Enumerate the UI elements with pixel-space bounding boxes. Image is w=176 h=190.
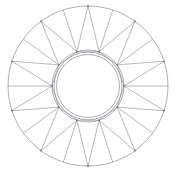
rosette-edge	[41, 120, 77, 150]
inner-vertex-node-7	[58, 106, 60, 108]
outer-vertex-node-2	[134, 20, 136, 22]
outer-vertex-node-6	[87, 165, 89, 167]
rosette-svg	[0, 0, 176, 190]
rosette-edge	[12, 107, 59, 111]
rosette-edge	[41, 21, 77, 51]
rosette-edge	[63, 120, 77, 162]
outer-vertex-node-1	[87, 5, 89, 7]
inner-vertex-node-9	[58, 64, 60, 66]
rosette-edge	[124, 61, 164, 86]
rosette-edge	[12, 61, 52, 86]
outer-vertex-node-8	[11, 110, 13, 112]
rosette-edge	[77, 120, 88, 166]
inner-vertex-node-10	[76, 51, 78, 53]
rosette-edge	[99, 10, 113, 52]
rosette-edge	[99, 120, 135, 150]
rosette-edge	[88, 120, 99, 166]
rosette-edge	[117, 61, 164, 65]
outer-vertex-node-5	[134, 150, 136, 152]
inner-concentric-circle-2	[54, 52, 122, 120]
rosette-edge	[124, 86, 164, 111]
rosette-edge	[12, 86, 52, 111]
rosette-edge	[12, 61, 59, 65]
inner-vertex-node-1	[98, 51, 100, 53]
inner-concentric-circle-3	[57, 55, 120, 118]
inner-vertex-node-3	[123, 85, 125, 87]
rosette-edge	[88, 6, 99, 52]
outer-vertex-node-9	[11, 60, 13, 62]
rosette-edge	[99, 21, 135, 51]
inner-concentric-circle-1	[52, 50, 124, 122]
spoke-line-group	[8, 10, 168, 162]
inner-vertex-node-4	[116, 106, 118, 108]
inner-vertex-node-2	[116, 64, 118, 66]
rosette-diagram-canvas	[0, 0, 176, 190]
outer-vertex-node-3	[163, 60, 165, 62]
outer-vertex-node-4	[163, 110, 165, 112]
outer-vertex-node-7	[40, 150, 42, 152]
rosette-edge	[63, 10, 77, 52]
rosette-edge	[77, 6, 88, 52]
rosette-edge	[99, 120, 113, 162]
inner-vertex-node-6	[76, 119, 78, 121]
rosette-edge	[117, 107, 164, 111]
outer-vertex-node-10	[40, 20, 42, 22]
inner-vertex-node-8	[51, 85, 53, 87]
inner-vertex-node-5	[98, 119, 100, 121]
